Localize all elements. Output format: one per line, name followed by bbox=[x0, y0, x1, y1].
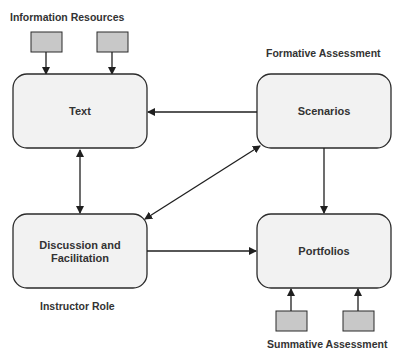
instructor-role-label: Instructor Role bbox=[40, 300, 115, 312]
summative-source-2 bbox=[343, 311, 374, 331]
node-scenarios: Scenarios bbox=[257, 74, 391, 148]
summative-assessment-label: Summative Assessment bbox=[267, 338, 388, 350]
node-portfolios-label: Portfolios bbox=[298, 245, 349, 257]
node-text: Text bbox=[13, 74, 147, 148]
information-resource-1 bbox=[31, 32, 62, 52]
formative-assessment-label: Formative Assessment bbox=[266, 47, 381, 59]
information-resource-2 bbox=[97, 32, 128, 52]
node-discussion-label-line1: Discussion and bbox=[39, 239, 120, 251]
node-text-label: Text bbox=[69, 105, 91, 117]
information-resources-label: Information Resources bbox=[10, 11, 125, 23]
summative-source-1 bbox=[276, 311, 307, 331]
node-portfolios: Portfolios bbox=[257, 214, 391, 288]
diagram-canvas: Information Resources Formative Assessme… bbox=[0, 0, 402, 354]
node-scenarios-label: Scenarios bbox=[298, 105, 351, 117]
arrow-scenarios-discussion bbox=[145, 146, 260, 219]
node-discussion: Discussion and Facilitation bbox=[13, 214, 147, 288]
node-discussion-label-line2: Facilitation bbox=[51, 252, 109, 264]
